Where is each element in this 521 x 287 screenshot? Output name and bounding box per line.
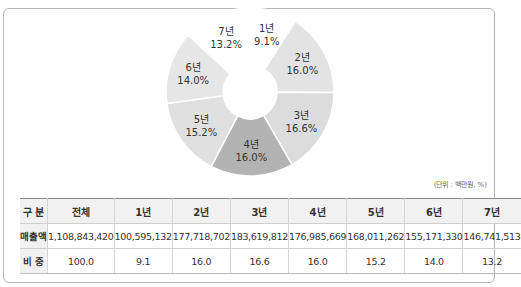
segment-label: 7년13.2% [201, 25, 251, 51]
header-year-1: 1년 [114, 199, 172, 224]
header-year-6: 6년 [405, 199, 463, 224]
row-label-share: 비 중 [20, 249, 48, 274]
cell-sales-year-7: 146,741,513 [463, 224, 521, 249]
segment-label: 4년16.0% [226, 138, 276, 164]
header-year-7: 7년 [463, 199, 521, 224]
header-year-2: 2년 [172, 199, 230, 224]
cell-sales-year-6: 155,171,330 [405, 224, 463, 249]
cell-sales-year-3: 183,619,812 [230, 224, 288, 249]
cell-sales-year-5: 168,011,262 [347, 224, 405, 249]
cell-share-year-3: 16.6 [230, 249, 288, 274]
header-year-5: 5년 [347, 199, 405, 224]
cell-share-year-6: 14.0 [405, 249, 463, 274]
cell-sales-total: 1,108,843,420 [48, 224, 115, 249]
segment-label: 3년16.6% [276, 109, 326, 135]
donut-chart: 1년9.1%2년16.0%3년16.6%4년16.0%5년15.2%6년14.0… [0, 0, 499, 190]
cell-share-year-1: 9.1 [114, 249, 172, 274]
data-table: 구 분 전체 1년 2년 3년 4년 5년 6년 7년 매출액 1,108,84… [20, 198, 521, 274]
header-category: 구 분 [20, 199, 48, 224]
table-row-sales: 매출액 1,108,843,420 100,595,132 177,718,70… [20, 224, 521, 249]
unit-note: (단위 : 백만원, %) [434, 179, 487, 189]
header-total: 전체 [48, 199, 115, 224]
cell-share-year-7: 13.2 [463, 249, 521, 274]
cell-sales-year-1: 100,595,132 [114, 224, 172, 249]
cell-share-year-2: 16.0 [172, 249, 230, 274]
cell-share-year-5: 15.2 [347, 249, 405, 274]
cell-sales-year-4: 176,985,669 [289, 224, 347, 249]
header-year-3: 3년 [230, 199, 288, 224]
segment-label: 5년15.2% [176, 113, 226, 139]
row-label-sales: 매출액 [20, 224, 48, 249]
segment-label: 6년14.0% [168, 61, 218, 87]
cell-sales-year-2: 177,718,702 [172, 224, 230, 249]
table-row-share: 비 중 100.0 9.1 16.0 16.6 16.0 15.2 14.0 1… [20, 249, 521, 274]
cell-share-year-4: 16.0 [289, 249, 347, 274]
header-year-4: 4년 [289, 199, 347, 224]
cell-share-total: 100.0 [48, 249, 115, 274]
segment-label: 2년16.0% [277, 51, 327, 77]
table-header-row: 구 분 전체 1년 2년 3년 4년 5년 6년 7년 [20, 199, 521, 224]
